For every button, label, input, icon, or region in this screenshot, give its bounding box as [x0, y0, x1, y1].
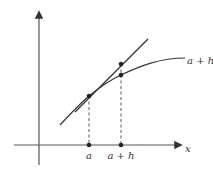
point-x-axis-a-plus-h	[119, 143, 124, 148]
tick-label-a: a	[86, 150, 92, 161]
tangent-line-diagram: x a a + h a + h	[0, 0, 213, 173]
point-on-curve-a-plus-h	[119, 73, 124, 78]
curve-label: a + h	[187, 55, 213, 66]
point-x-axis-a	[87, 143, 92, 148]
point-on-tangent-a-plus-h	[119, 62, 124, 67]
x-axis-label: x	[185, 143, 191, 154]
point-on-curve-a	[87, 94, 92, 99]
tick-label-a-plus-h: a + h	[107, 150, 134, 161]
function-curve	[60, 58, 185, 125]
tangent-line	[75, 39, 148, 112]
